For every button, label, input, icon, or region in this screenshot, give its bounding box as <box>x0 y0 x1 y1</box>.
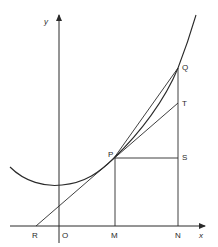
point-n-label: N <box>175 232 181 240</box>
point-r-label: R <box>32 232 38 240</box>
curve <box>10 15 196 185</box>
x-axis-label: x <box>199 232 203 240</box>
chord-pq <box>114 68 178 158</box>
point-p-label: P <box>108 151 113 159</box>
point-q-label: Q <box>182 64 188 72</box>
point-m-label: M <box>111 232 118 240</box>
point-t-label: T <box>182 100 187 108</box>
diagram-canvas <box>0 0 218 247</box>
point-s-label: S <box>182 154 187 162</box>
origin-label: O <box>62 232 68 240</box>
y-axis-label: y <box>44 18 48 26</box>
tangent-line <box>36 103 178 226</box>
